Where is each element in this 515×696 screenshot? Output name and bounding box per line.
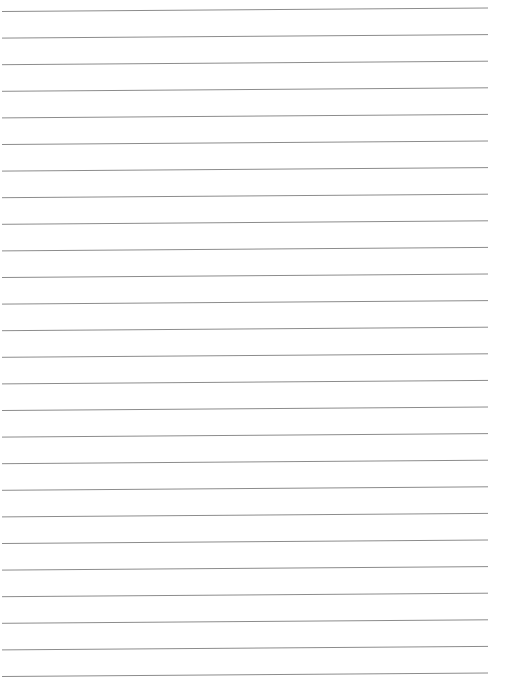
ruled-line (2, 61, 488, 64)
lined-paper-sheet (0, 0, 515, 696)
ruled-line (2, 354, 488, 358)
ruled-line (2, 221, 488, 225)
ruled-line (2, 114, 488, 118)
ruled-line (2, 35, 488, 39)
ruled-line (2, 487, 488, 491)
ruled-line (2, 460, 488, 464)
ruled-line (2, 141, 488, 145)
ruled-line (2, 434, 488, 438)
ruled-line (2, 407, 488, 411)
ruled-line (2, 301, 488, 305)
ruled-line (2, 620, 488, 624)
ruled-lines (0, 0, 515, 696)
ruled-line (2, 194, 488, 198)
ruled-line (2, 8, 488, 12)
ruled-line (2, 327, 488, 331)
ruled-line (2, 247, 488, 251)
ruled-line (2, 567, 488, 571)
ruled-line (2, 274, 488, 278)
ruled-line (2, 168, 488, 172)
ruled-line (2, 540, 488, 544)
ruled-line (2, 673, 488, 677)
ruled-line (2, 646, 488, 650)
ruled-line (2, 513, 488, 517)
ruled-line (2, 88, 488, 92)
ruled-line (2, 380, 488, 384)
ruled-line (2, 593, 488, 597)
